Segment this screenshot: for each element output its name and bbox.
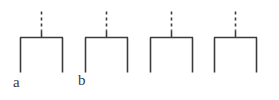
- shape-label-b: b: [78, 73, 86, 88]
- bridge-unit-b: [85, 12, 128, 73]
- bridge-unit-a: [20, 12, 63, 73]
- diagram-canvas: a b: [0, 0, 279, 100]
- bridge-unit-3: [150, 12, 193, 73]
- bridge-unit-4: [214, 12, 257, 73]
- shape-label-a: a: [13, 75, 20, 90]
- bridge-units-diagram: [0, 0, 279, 100]
